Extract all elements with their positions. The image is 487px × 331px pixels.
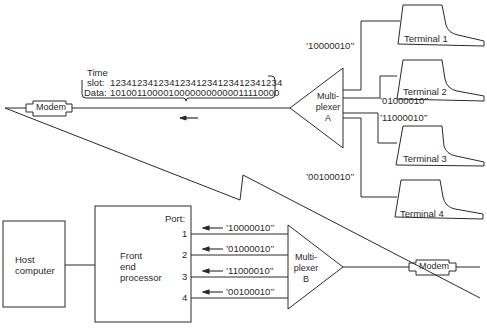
port-label: Port: (165, 213, 185, 224)
terminal-2-code: ’01000010’’ (380, 95, 428, 106)
front-end-processor-label: Front end processor (120, 250, 162, 283)
port-1-code: ’10000010’’ (226, 222, 274, 233)
multiplexer-a-label: Multi- plexer A (313, 91, 343, 124)
host-computer-label: Host computer (15, 254, 55, 276)
modem-top-label: Modem (36, 102, 66, 113)
data-value: 10100110000100000000000011110000 (110, 87, 279, 98)
modem-bottom-label: Modem (419, 261, 449, 272)
port-3-code: ’11000010’’ (226, 265, 274, 276)
port-2-number: 2 (182, 249, 187, 260)
terminal-4-label: Terminal 4 (400, 208, 444, 219)
diagram-lines (0, 0, 487, 331)
port-3-number: 3 (182, 271, 187, 282)
terminal-4-code: ’00100010’’ (306, 171, 354, 182)
terminal-3-code: ’11000010’’ (380, 112, 428, 123)
terminal-1-code: ’10000010’’ (306, 40, 354, 51)
data-label: Data: (84, 87, 107, 98)
port-1-number: 1 (182, 228, 187, 239)
port-4-number: 4 (182, 292, 187, 303)
terminal-1-label: Terminal 1 (404, 33, 448, 44)
port-2-code: ’01000010’’ (226, 243, 274, 254)
multiplexer-b-label: Multi- plexer B (288, 252, 324, 285)
port-4-code: ’00100010’’ (226, 286, 274, 297)
terminal-3-label: Terminal 3 (403, 153, 447, 164)
